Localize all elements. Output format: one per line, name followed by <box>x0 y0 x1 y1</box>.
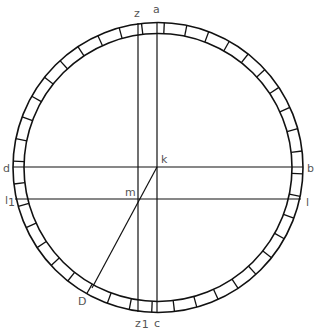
ring-tick <box>287 129 298 132</box>
ring-tick <box>249 266 256 274</box>
ring-tick <box>98 36 103 46</box>
ring-tick <box>119 28 122 39</box>
ring-tick <box>78 47 84 56</box>
ring-tick <box>37 242 46 248</box>
ring-tick <box>257 70 265 77</box>
ring-tick <box>284 214 294 218</box>
ring-tick <box>18 203 29 206</box>
ring-tick <box>45 77 54 84</box>
ring-tick <box>60 61 67 69</box>
ring-tick <box>32 96 42 101</box>
ring-tick <box>68 272 75 281</box>
label-D: D <box>78 295 86 308</box>
ring-tick <box>241 54 248 63</box>
ring-tick <box>87 284 92 294</box>
label-l1-sub: 1 <box>8 196 15 209</box>
diagram-canvas: a z c z1 d b l1 l k m D <box>0 0 317 333</box>
ring-tick <box>22 117 32 121</box>
ring-tick <box>289 194 300 196</box>
ring-tick <box>270 87 279 93</box>
ring-tick <box>152 301 153 312</box>
label-z1: z1 <box>135 317 149 331</box>
ring-tick <box>164 23 165 34</box>
label-l: l <box>306 196 309 209</box>
label-k: k <box>161 153 168 166</box>
ring-tick <box>263 251 272 258</box>
ring-tick <box>51 258 59 265</box>
ring-tick <box>214 289 219 299</box>
label-d: d <box>3 162 10 175</box>
label-m: m <box>125 186 136 199</box>
ring-tick <box>194 297 197 308</box>
ring-tick <box>16 139 27 141</box>
ring-tick <box>292 173 303 174</box>
label-b: b <box>307 162 314 175</box>
ring-tick <box>142 23 143 34</box>
ring-tick <box>291 151 302 152</box>
ring-tick <box>185 25 187 36</box>
ring-tick <box>280 107 290 112</box>
ring-tick <box>13 161 24 162</box>
ring-tick <box>173 301 174 312</box>
ring-tick <box>224 41 229 51</box>
label-z: z <box>134 7 140 20</box>
label-l1: l1 <box>5 194 15 209</box>
ring-tick <box>14 183 25 184</box>
ring-tick <box>129 299 131 310</box>
label-a: a <box>153 3 160 16</box>
ring-tick <box>275 233 285 238</box>
label-c: c <box>154 317 160 330</box>
ring-tick <box>107 293 111 303</box>
ring-tick <box>26 223 36 228</box>
label-z1-sub: 1 <box>142 318 149 331</box>
ring-tick <box>232 279 238 288</box>
label-z1-main: z <box>135 317 141 330</box>
ring-tick <box>205 32 209 42</box>
